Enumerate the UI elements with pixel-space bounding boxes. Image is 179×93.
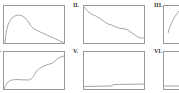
panel-vi-graph xyxy=(0,0,179,93)
